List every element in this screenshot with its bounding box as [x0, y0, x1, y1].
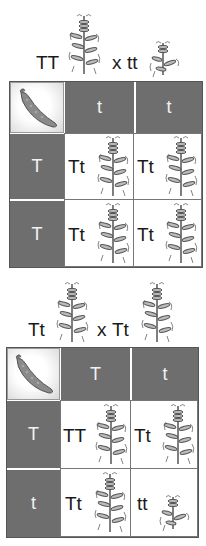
tall-pea-plant-icon	[93, 201, 133, 267]
cross-2-header: Tt x Tt	[0, 280, 206, 340]
row-header-allele: T	[10, 134, 64, 199]
offspring-genotype: Tt	[68, 156, 85, 178]
parent-1-genotype: TT	[36, 53, 59, 73]
row-header-allele: t	[7, 470, 60, 537]
column-header-allele: t	[65, 82, 134, 133]
offspring-cell: Tt	[64, 133, 134, 200]
tall-pea-plant-icon	[137, 280, 177, 346]
tall-pea-plant-icon	[64, 12, 104, 78]
offspring-genotype: Tt	[65, 493, 82, 515]
punnett-square-2: T t T t TT Tt Tt tt	[6, 347, 199, 538]
column-header-allele: t	[132, 348, 198, 400]
parent-2-genotype: Tt	[112, 320, 129, 340]
offspring-genotype: Tt	[137, 224, 154, 246]
offspring-cell: Tt	[133, 199, 202, 267]
offspring-genotype: Tt	[134, 425, 151, 447]
corner-cell	[7, 348, 60, 400]
punnett-square-1: t t T T Tt Tt Tt Tt	[9, 81, 203, 268]
offspring-cell: Tt	[64, 199, 134, 267]
tall-pea-plant-icon	[90, 470, 130, 536]
row-header-allele: T	[10, 201, 64, 267]
tall-pea-plant-icon	[52, 280, 92, 346]
offspring-cell: Tt	[133, 133, 202, 200]
short-pea-plant-icon	[155, 489, 195, 534]
tall-pea-plant-icon	[161, 134, 201, 200]
offspring-cell: TT	[60, 400, 131, 469]
row-header-allele: T	[7, 401, 60, 468]
short-pea-plant-icon	[145, 35, 185, 80]
offspring-cell: Tt	[130, 400, 198, 469]
tall-pea-plant-icon	[161, 201, 201, 267]
column-header-allele: t	[136, 82, 202, 133]
corner-cell	[10, 82, 64, 133]
offspring-genotype: Tt	[68, 224, 85, 246]
cross-operator: x	[112, 53, 122, 73]
offspring-genotype: tt	[137, 493, 148, 515]
cross-operator: x	[97, 320, 107, 340]
column-header-allele: T	[61, 348, 130, 400]
offspring-cell: Tt	[60, 468, 131, 537]
parent-2-genotype: tt	[127, 53, 138, 73]
offspring-cell: tt	[130, 468, 198, 537]
tall-pea-plant-icon	[91, 402, 131, 468]
pea-pod-icon	[15, 87, 61, 131]
cross-1-header: TT x tt	[0, 10, 206, 70]
tall-pea-plant-icon	[93, 134, 133, 200]
offspring-genotype: Tt	[137, 156, 154, 178]
offspring-genotype: TT	[63, 425, 86, 447]
pea-pod-icon	[11, 353, 57, 397]
parent-1-genotype: Tt	[28, 320, 45, 340]
tall-pea-plant-icon	[158, 402, 198, 468]
